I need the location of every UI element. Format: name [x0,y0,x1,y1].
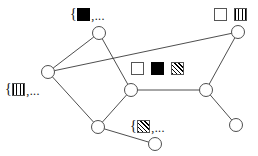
graph-figure: { ,... { ,... { ,... [0,0,258,156]
graph-node [232,26,245,39]
top-right-legend [214,8,247,21]
graph-canvas [0,0,258,156]
ellipsis-tail: ,... [91,10,105,22]
open-brace: { [5,82,12,96]
ellipsis-tail: ,... [26,85,40,97]
graph-node [125,84,138,97]
left-node-set-label: { ,... [5,82,40,96]
open-brace: { [130,119,137,133]
bottom-node-set-label: { ,... [130,119,165,133]
graph-edge [102,39,128,85]
center-legend [131,62,184,75]
diagonal-hatch-square-icon [137,120,150,133]
ellipsis-tail: ,... [151,122,165,134]
graph-edge [52,77,93,122]
empty-square-icon [214,8,227,21]
graph-node [42,66,55,79]
graph-edge [210,95,232,120]
graph-edge [102,95,126,122]
top-node-set-label: { ,... [70,7,105,21]
solid-square-icon [151,62,164,75]
vertical-hatch-square-icon [234,8,247,21]
graph-node [200,84,213,97]
solid-square-icon [77,8,90,21]
graph-edge [209,38,235,85]
graph-node [93,27,106,40]
diagonal-hatch-square-icon [171,62,184,75]
empty-square-icon [131,62,144,75]
open-brace: { [70,7,77,21]
vertical-hatch-square-icon [12,83,25,96]
graph-node [230,119,243,132]
graph-node [149,138,162,151]
graph-node [92,121,105,134]
